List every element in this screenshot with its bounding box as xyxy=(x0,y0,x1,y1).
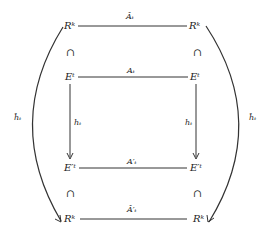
node-mid-top-right: Eᵗ xyxy=(190,72,200,82)
label-top: Âₜ xyxy=(126,12,134,22)
node-bottom-left: Rᵏ xyxy=(64,214,75,224)
label-left-vertical: hₜ xyxy=(74,118,81,128)
inclusion-bottom-left: ⊂ xyxy=(65,189,76,198)
node-bottom-right: Rᵏ xyxy=(193,214,204,224)
commutative-diagram: Rᵏ Rᵏ Eᵗ Eᵗ E′ᵗ E′ᵗ Rᵏ Rᵏ ⊂ ⊂ ⊂ ⊂ Âₜ Aₜ … xyxy=(0,0,275,239)
node-mid-bottom-right: E′ᵗ xyxy=(190,163,202,173)
left-arc xyxy=(32,27,63,221)
label-right-vertical: hₜ xyxy=(185,118,192,128)
label-middle-bottom: A′ₜ xyxy=(127,157,137,167)
node-top-right: Rᵏ xyxy=(189,21,200,31)
label-bottom: Â′ₜ xyxy=(127,205,137,215)
diagram-lines xyxy=(0,0,275,239)
inclusion-top-right: ⊂ xyxy=(192,48,203,57)
label-right-arc: ĥₜ xyxy=(249,113,256,123)
inclusion-bottom-right: ⊂ xyxy=(192,189,203,198)
node-mid-bottom-left: E′ᵗ xyxy=(64,163,76,173)
label-middle-top: Aₜ xyxy=(127,66,135,76)
node-top-left: Rᵏ xyxy=(64,21,75,31)
inclusion-top-left: ⊂ xyxy=(65,48,76,57)
right-arc xyxy=(206,26,239,222)
label-left-arc: ĥₜ xyxy=(14,113,21,123)
node-mid-top-left: Eᵗ xyxy=(65,72,75,82)
